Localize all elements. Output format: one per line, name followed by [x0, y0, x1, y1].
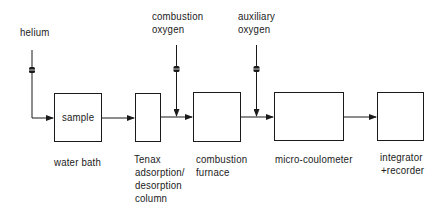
caption-line: furnace	[196, 166, 247, 179]
caption-line: +recorder	[381, 164, 424, 177]
furnace-box	[194, 93, 241, 142]
integrator-box	[378, 93, 424, 141]
valve-icon	[254, 66, 260, 72]
valve-icon	[29, 67, 35, 73]
valve-icon	[174, 66, 180, 72]
label-line: oxygen	[238, 23, 275, 36]
caption-line: desorption	[135, 179, 185, 192]
label-line: oxygen	[152, 23, 203, 36]
caption-line: integrator	[380, 151, 424, 164]
caption-line: Tenax	[134, 153, 185, 166]
caption-line: combustion	[196, 153, 247, 166]
coulometer-box	[275, 93, 344, 141]
flow-diagram	[0, 0, 446, 216]
caption-line: column	[135, 192, 185, 205]
caption-line: adsorption/	[135, 166, 185, 179]
coulometer-caption: micro-coulometer	[275, 153, 353, 166]
furnace-caption: combustion furnace	[196, 153, 247, 179]
helium-line	[32, 50, 53, 118]
water-bath-caption: water bath	[54, 156, 101, 169]
auxiliary-oxygen-label: auxiliary oxygen	[238, 10, 275, 36]
helium-label: helium	[20, 26, 50, 39]
label-line: auxiliary	[238, 10, 275, 23]
label-line: combustion	[152, 10, 203, 23]
tenax-caption: Tenax adsorption/ desorption column	[134, 153, 185, 205]
integrator-caption: integrator +recorder	[380, 151, 424, 177]
tenax-box	[136, 94, 161, 142]
sample-box-label: sample	[62, 111, 94, 124]
combustion-oxygen-label: combustion oxygen	[152, 10, 203, 36]
